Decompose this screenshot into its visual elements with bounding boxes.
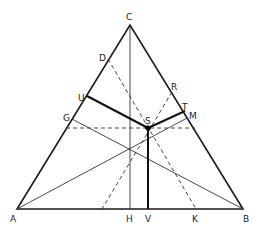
label-c: C [126,12,132,22]
ternary-diagram: A B C D U G R T M S H V K [0,0,263,232]
label-t: T [181,102,188,112]
label-a: A [10,214,17,224]
label-m: M [189,111,197,121]
segment-us [87,96,148,128]
label-b: B [243,214,249,224]
point-s-marker [145,125,150,130]
label-s: S [145,116,151,126]
segment-st [148,111,185,128]
line-am [17,118,187,209]
label-k: K [192,214,199,224]
label-u: U [78,93,85,103]
label-h: H [126,214,133,224]
line-gb [72,119,243,209]
label-v: V [145,214,152,224]
dashed-dk [108,59,196,209]
label-d: D [99,53,106,63]
label-r: R [171,82,177,92]
label-g: G [63,113,70,123]
